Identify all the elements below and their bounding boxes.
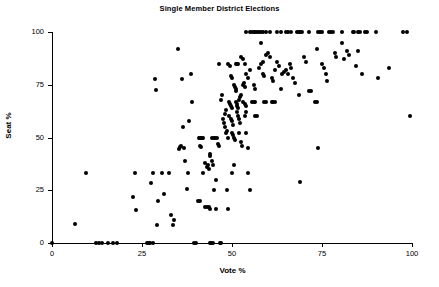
- data-point: [73, 222, 77, 226]
- data-point: [225, 129, 229, 133]
- data-point: [225, 188, 229, 192]
- data-point: [199, 145, 203, 149]
- x-tick-mark: [322, 244, 323, 247]
- data-point: [208, 154, 212, 158]
- data-point: [246, 171, 250, 175]
- data-point: [291, 76, 295, 80]
- data-point: [244, 104, 248, 108]
- data-point: [243, 114, 247, 118]
- data-point: [279, 30, 283, 34]
- data-point: [155, 223, 159, 227]
- data-point: [241, 57, 245, 61]
- scatter-chart: Single Member District Elections Seat % …: [0, 0, 439, 287]
- data-point: [376, 76, 380, 80]
- data-point: [219, 98, 223, 102]
- data-point: [297, 93, 301, 97]
- data-point: [234, 89, 238, 93]
- data-point: [50, 241, 54, 245]
- data-point: [230, 171, 234, 175]
- data-point: [322, 66, 326, 70]
- data-point: [342, 57, 346, 61]
- data-point: [268, 30, 272, 34]
- data-point: [186, 171, 190, 175]
- data-point: [253, 100, 257, 104]
- data-point: [354, 64, 358, 68]
- data-point: [182, 146, 186, 150]
- y-axis-label: Seat %: [4, 96, 13, 156]
- data-point: [286, 72, 290, 76]
- data-point: [408, 114, 412, 118]
- data-point: [243, 62, 247, 66]
- y-tick-label: 0: [14, 238, 44, 247]
- data-point: [302, 55, 306, 59]
- data-point: [169, 213, 173, 217]
- data-point: [277, 64, 281, 68]
- data-point: [356, 49, 360, 53]
- data-point: [217, 144, 221, 148]
- data-point: [134, 208, 138, 212]
- data-point: [244, 110, 248, 114]
- data-point: [253, 87, 257, 91]
- data-point: [387, 66, 391, 70]
- data-point: [84, 171, 88, 175]
- data-point: [211, 163, 215, 167]
- data-point: [244, 131, 248, 135]
- data-point: [131, 195, 135, 199]
- data-point: [181, 125, 185, 129]
- data-point: [365, 30, 369, 34]
- data-point: [171, 223, 175, 227]
- data-point: [153, 77, 157, 81]
- data-point: [237, 131, 241, 135]
- data-point: [167, 171, 171, 175]
- data-point: [261, 60, 265, 64]
- data-point: [239, 93, 243, 97]
- data-point: [230, 76, 234, 80]
- data-point: [151, 171, 155, 175]
- data-point: [232, 163, 236, 167]
- data-point: [189, 72, 193, 76]
- data-point: [262, 74, 266, 78]
- data-point: [176, 47, 180, 51]
- data-point: [133, 171, 137, 175]
- data-point: [187, 119, 191, 123]
- data-point: [156, 199, 160, 203]
- data-point: [162, 192, 166, 196]
- data-point: [331, 30, 335, 34]
- data-point: [360, 72, 364, 76]
- data-point: [405, 30, 409, 34]
- plot-area: [52, 32, 412, 243]
- data-point: [221, 117, 225, 121]
- data-point: [154, 88, 158, 92]
- data-point: [309, 89, 313, 93]
- data-point: [217, 62, 221, 66]
- data-point: [289, 30, 293, 34]
- x-tick-label: 100: [392, 249, 432, 258]
- data-point: [231, 123, 235, 127]
- data-point: [115, 241, 119, 245]
- data-point: [106, 241, 110, 245]
- data-point: [316, 146, 320, 150]
- data-point: [212, 188, 216, 192]
- data-point: [237, 117, 241, 121]
- data-point: [224, 108, 228, 112]
- data-point: [340, 41, 344, 45]
- data-point: [220, 93, 224, 97]
- data-point: [246, 146, 250, 150]
- data-point: [236, 62, 240, 66]
- data-point: [208, 207, 212, 211]
- y-tick-label: 25: [14, 185, 44, 194]
- data-point: [358, 30, 362, 34]
- data-point: [223, 112, 227, 116]
- data-point: [190, 100, 194, 104]
- data-point: [307, 30, 311, 34]
- data-point: [315, 47, 319, 51]
- data-point: [325, 79, 329, 83]
- data-point: [315, 100, 319, 104]
- data-point: [215, 136, 219, 140]
- data-point: [183, 159, 187, 163]
- data-point: [219, 241, 223, 245]
- x-axis-label: Vote %: [52, 266, 413, 275]
- x-tick-label: 50: [212, 249, 252, 258]
- data-point: [298, 180, 302, 184]
- data-point: [248, 188, 252, 192]
